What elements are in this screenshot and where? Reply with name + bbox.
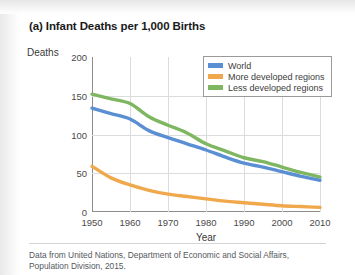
- series-line-less-developed-regions: [92, 94, 320, 177]
- caption-divider: [29, 243, 326, 244]
- y-tick-label: 0: [82, 207, 87, 218]
- x-tick-label: 1990: [233, 217, 254, 228]
- legend-label: Less developed regions: [228, 83, 323, 93]
- figure-caption: Data from United Nations, Department of …: [29, 250, 329, 271]
- x-tick-label: 1950: [81, 217, 102, 228]
- y-tick-label: 150: [71, 90, 87, 101]
- legend-swatch-icon: [208, 85, 223, 90]
- legend-swatch-icon: [208, 63, 223, 68]
- x-axis-title: Year: [92, 232, 320, 243]
- y-axis-title: Deaths: [27, 47, 59, 58]
- figure-container: (a) Infant Deaths per 1,000 Births Death…: [0, 0, 355, 275]
- x-tick-label: 1960: [119, 217, 140, 228]
- x-tick-label: 2010: [309, 217, 330, 228]
- x-tick-label: 1970: [157, 217, 178, 228]
- legend-swatch-icon: [208, 74, 223, 79]
- y-tick-label: 100: [71, 129, 87, 140]
- figure-title: (a) Infant Deaths per 1,000 Births: [29, 20, 205, 32]
- legend-item: More developed regions: [208, 71, 325, 82]
- y-tick-label: 50: [76, 168, 87, 179]
- x-tick-label: 1980: [195, 217, 216, 228]
- legend-item: World: [208, 60, 325, 71]
- legend-label: More developed regions: [228, 72, 325, 82]
- chart-legend: WorldMore developed regionsLess develope…: [203, 56, 332, 97]
- legend-label: World: [228, 61, 251, 71]
- x-tick-label: 2000: [271, 217, 292, 228]
- legend-item: Less developed regions: [208, 82, 325, 93]
- y-tick-label: 200: [71, 52, 87, 63]
